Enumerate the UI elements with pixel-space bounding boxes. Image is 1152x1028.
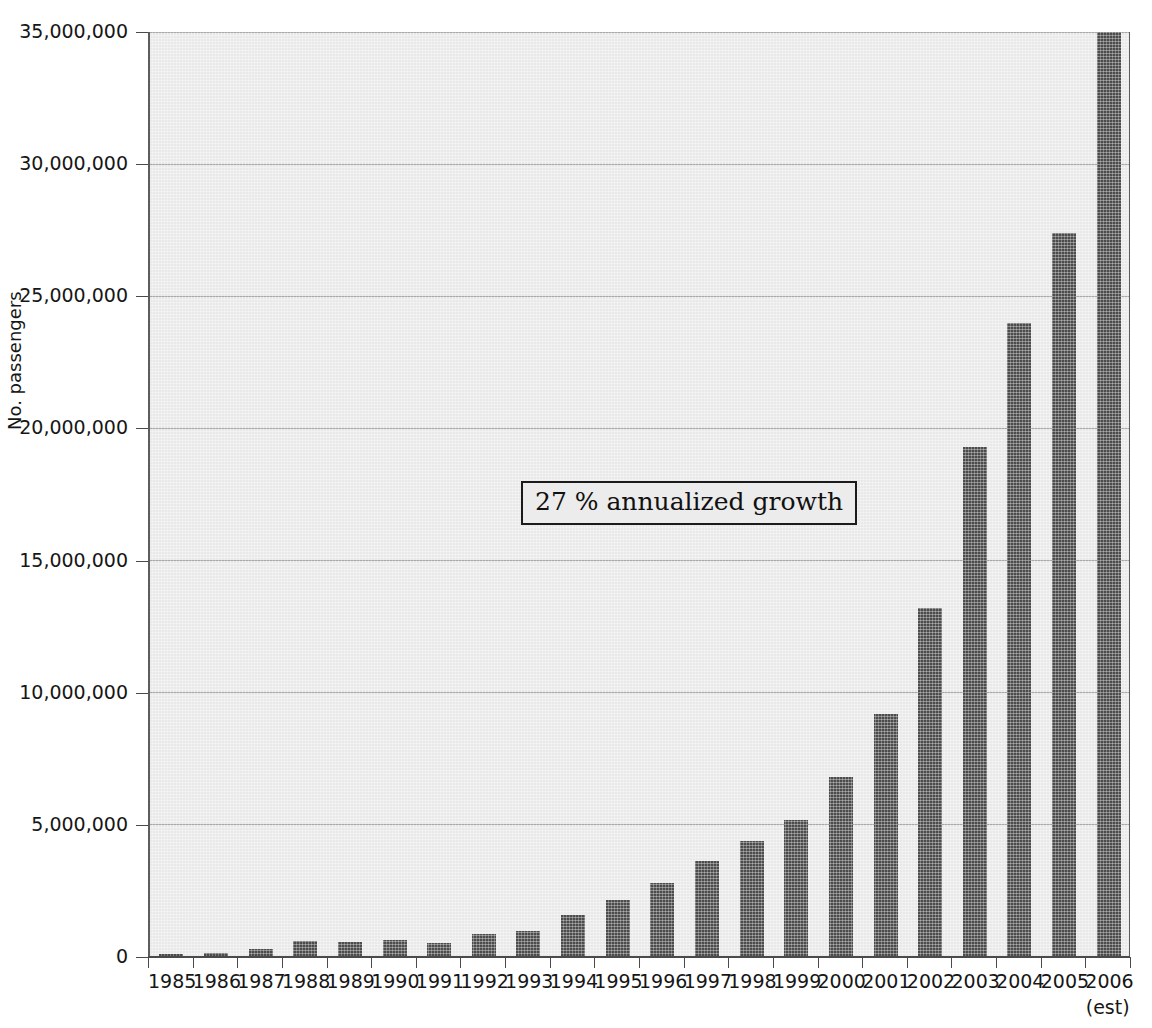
x-axis-tick [371, 957, 372, 968]
x-axis-tick [282, 957, 283, 968]
bar [561, 915, 585, 957]
x-axis-tick-label: 1986 [193, 972, 238, 991]
x-axis-tick-label: 1988 [282, 972, 327, 991]
x-axis-tick [594, 957, 595, 968]
x-axis-tick [148, 957, 149, 968]
bar [293, 941, 317, 957]
bar [1097, 32, 1121, 957]
x-axis-tick [951, 957, 952, 968]
x-axis-tick [1085, 957, 1086, 968]
x-axis-tick-label: 1998 [728, 972, 773, 991]
x-axis-tick-label: 2005 [1041, 972, 1086, 991]
bar [784, 820, 808, 957]
x-axis-tick [907, 957, 908, 968]
x-axis-tick [684, 957, 685, 968]
x-axis-tick [818, 957, 819, 968]
x-axis-tick [1130, 957, 1131, 968]
x-axis-tick [996, 957, 997, 968]
bar [338, 942, 362, 957]
bar [1007, 323, 1031, 957]
x-axis-tick [550, 957, 551, 968]
bar [695, 861, 719, 957]
x-axis-tick-label: 1994 [550, 972, 595, 991]
x-axis-tick-label: 2003 [951, 972, 996, 991]
x-axis-tick-label: 1987 [237, 972, 282, 991]
x-axis-tick [416, 957, 417, 968]
bar [516, 931, 540, 957]
bar-chart-figure: No. passengers 05,000,00010,000,00015,00… [0, 0, 1152, 1028]
y-axis-tick-label: 30,000,000 [19, 154, 128, 173]
x-axis-tick-label: 1999 [773, 972, 818, 991]
y-axis-tick-label: 5,000,000 [31, 815, 128, 834]
x-axis-tick-label: 1993 [505, 972, 550, 991]
bar [918, 608, 942, 957]
x-axis-tick [193, 957, 194, 968]
bar [874, 714, 898, 957]
x-axis-tick [460, 957, 461, 968]
x-axis-tick-label: 2002 [907, 972, 952, 991]
bar [472, 934, 496, 957]
y-axis-tick-label: 25,000,000 [19, 286, 128, 305]
bar [829, 777, 853, 957]
y-axis-tick-label: 15,000,000 [19, 551, 128, 570]
x-axis-tick [639, 957, 640, 968]
x-axis-tick-label: 1990 [371, 972, 416, 991]
y-axis-tick-label: 10,000,000 [19, 683, 128, 702]
x-axis-tick-label: 1996 [639, 972, 684, 991]
x-axis-tick-label: 1989 [327, 972, 372, 991]
x-axis-tick-label: 2004 [996, 972, 1041, 991]
bar [383, 940, 407, 957]
x-axis-tick-label: 1985 [148, 972, 193, 991]
x-axis-tick [773, 957, 774, 968]
x-axis-tick [1041, 957, 1042, 968]
growth-annotation-box: 27 % annualized growth [521, 481, 857, 525]
x-axis-tick-label: 2006 [1085, 972, 1130, 991]
x-axis-tick [728, 957, 729, 968]
bar [427, 943, 451, 957]
x-axis-tick-label: 1991 [416, 972, 461, 991]
y-axis-line [148, 32, 150, 957]
y-axis-tick-label: 20,000,000 [19, 418, 128, 437]
y-axis-tick-label: 35,000,000 [19, 22, 128, 41]
bar [606, 900, 630, 957]
x-axis-tick-label: 2000 [818, 972, 863, 991]
x-axis-tick [237, 957, 238, 968]
x-axis-tick [327, 957, 328, 968]
bar [650, 883, 674, 957]
x-axis-sublabel-est: (est) [1085, 998, 1130, 1017]
y-axis-title: No. passengers [6, 291, 24, 430]
bar [740, 841, 764, 957]
y-axis-tick-label: 0 [116, 947, 128, 966]
x-axis-tick-label: 1995 [594, 972, 639, 991]
x-axis-tick [505, 957, 506, 968]
bar [1052, 233, 1076, 957]
x-axis-tick [862, 957, 863, 968]
x-axis-tick-label: 1997 [684, 972, 729, 991]
x-axis-tick-label: 2001 [862, 972, 907, 991]
bar [963, 447, 987, 957]
x-axis-tick-label: 1992 [460, 972, 505, 991]
